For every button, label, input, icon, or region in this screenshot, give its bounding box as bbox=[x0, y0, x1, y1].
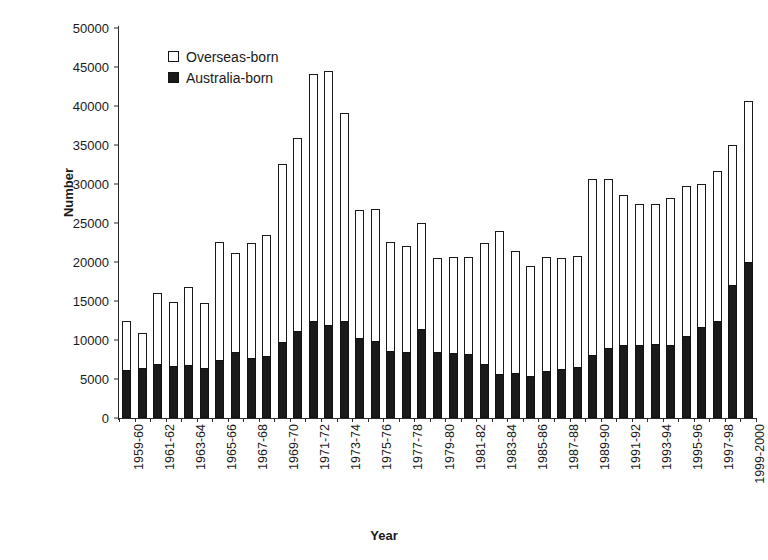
bar-segment-australia-born bbox=[293, 331, 302, 418]
x-axis-tick-mark bbox=[337, 418, 338, 422]
bar-segment-australia-born bbox=[184, 365, 193, 418]
bar-stack bbox=[651, 28, 660, 418]
bar-segment-australia-born bbox=[744, 262, 753, 418]
y-axis-tick-label: 25000 bbox=[0, 216, 118, 231]
bar-stack bbox=[728, 28, 737, 418]
x-axis-tick-mark bbox=[756, 418, 757, 422]
x-axis-tick-mark bbox=[212, 418, 213, 422]
x-axis-tick-mark bbox=[181, 418, 182, 422]
bar-stack bbox=[340, 28, 349, 418]
bar-segment-australia-born bbox=[215, 360, 224, 418]
chart-legend: Overseas-born Australia-born bbox=[168, 46, 279, 88]
bar-segment-australia-born bbox=[635, 345, 644, 418]
bar-segment-australia-born bbox=[557, 369, 566, 418]
x-axis-tick-label: 1975-76 bbox=[380, 424, 394, 470]
x-axis-tick-label: 1999-2000 bbox=[753, 424, 767, 484]
x-axis-tick-mark bbox=[678, 418, 679, 422]
y-axis-tick-label: 45000 bbox=[0, 60, 118, 75]
bar-stack bbox=[495, 28, 504, 418]
x-axis-tick-mark bbox=[476, 418, 477, 422]
bar-stack bbox=[511, 28, 520, 418]
x-axis-tick-label: 1985-86 bbox=[536, 424, 550, 470]
x-axis-tick-mark bbox=[523, 418, 524, 422]
bar-segment-australia-born bbox=[278, 342, 287, 418]
x-axis-tick-label: 1965-66 bbox=[225, 424, 239, 470]
x-axis-line bbox=[118, 418, 757, 419]
x-axis-tick-mark bbox=[274, 418, 275, 422]
x-axis-tick-mark bbox=[694, 418, 695, 422]
x-axis-tick-mark bbox=[150, 418, 151, 422]
y-axis-tick-label: 50000 bbox=[0, 21, 118, 36]
bar-stack bbox=[122, 28, 131, 418]
y-axis-tick-label: 20000 bbox=[0, 255, 118, 270]
bar-segment-australia-born bbox=[713, 321, 722, 418]
bar-stack bbox=[153, 28, 162, 418]
x-axis-tick-mark bbox=[321, 418, 322, 422]
bar-stack bbox=[386, 28, 395, 418]
bar-stack bbox=[635, 28, 644, 418]
x-axis-tick-label: 1981-82 bbox=[474, 424, 488, 470]
bar-segment-australia-born bbox=[619, 345, 628, 418]
bar-segment-australia-born bbox=[371, 341, 380, 418]
bar-segment-australia-born bbox=[588, 355, 597, 418]
bar-segment-australia-born bbox=[697, 327, 706, 418]
x-axis-tick-mark bbox=[570, 418, 571, 422]
x-axis-tick-label: 1993-94 bbox=[660, 424, 674, 470]
bar-stack bbox=[402, 28, 411, 418]
bar-stack bbox=[480, 28, 489, 418]
bar-segment-australia-born bbox=[138, 368, 147, 418]
x-axis-tick-mark bbox=[647, 418, 648, 422]
y-axis-tick-label: 30000 bbox=[0, 177, 118, 192]
x-axis-tick-label: 1973-74 bbox=[349, 424, 363, 470]
x-axis-tick-mark bbox=[119, 418, 120, 422]
bar-stack bbox=[433, 28, 442, 418]
x-axis-tick-label: 1959-60 bbox=[132, 424, 146, 470]
bar-stack bbox=[293, 28, 302, 418]
x-axis-tick-mark bbox=[538, 418, 539, 422]
x-axis-tick-mark bbox=[399, 418, 400, 422]
bar-segment-australia-born bbox=[340, 321, 349, 418]
bar-stack bbox=[371, 28, 380, 418]
x-axis-tick-mark bbox=[414, 418, 415, 422]
bar-segment-australia-born bbox=[666, 345, 675, 418]
bar-stack bbox=[278, 28, 287, 418]
legend-label-australia-born: Australia-born bbox=[186, 70, 273, 86]
x-axis-tick-label: 1969-70 bbox=[287, 424, 301, 470]
bar-segment-australia-born bbox=[464, 354, 473, 418]
x-axis-tick-label: 1979-80 bbox=[443, 424, 457, 470]
bar-segment-australia-born bbox=[153, 364, 162, 418]
bar-segment-australia-born bbox=[604, 348, 613, 418]
bar-stack bbox=[697, 28, 706, 418]
bar-segment-australia-born bbox=[169, 366, 178, 418]
x-axis-tick-mark bbox=[492, 418, 493, 422]
x-axis-tick-label: 1991-92 bbox=[629, 424, 643, 470]
bar-segment-australia-born bbox=[542, 371, 551, 418]
x-axis-tick-mark bbox=[585, 418, 586, 422]
x-axis-tick-mark bbox=[368, 418, 369, 422]
bar-stack bbox=[309, 28, 318, 418]
legend-swatch-australia-icon bbox=[168, 72, 179, 83]
x-axis-tick-mark bbox=[554, 418, 555, 422]
bar-stack bbox=[542, 28, 551, 418]
x-axis-tick-mark bbox=[243, 418, 244, 422]
x-axis-tick-label: 1977-78 bbox=[411, 424, 425, 470]
bar-segment-australia-born bbox=[682, 336, 691, 418]
x-axis-tick-mark bbox=[740, 418, 741, 422]
legend-item-overseas-born: Overseas-born bbox=[168, 46, 279, 67]
x-axis-tick-label: 1983-84 bbox=[505, 424, 519, 470]
x-axis-tick-label: 1997-98 bbox=[722, 424, 736, 470]
x-axis-tick-mark bbox=[461, 418, 462, 422]
x-axis-tick-label: 1961-62 bbox=[163, 424, 177, 470]
bar-stack bbox=[713, 28, 722, 418]
bar-stack bbox=[619, 28, 628, 418]
bar-segment-australia-born bbox=[309, 321, 318, 419]
bar-segment-australia-born bbox=[402, 352, 411, 418]
bar-stack bbox=[324, 28, 333, 418]
x-axis-tick-mark bbox=[507, 418, 508, 422]
x-axis-tick-mark bbox=[135, 418, 136, 422]
bar-segment-australia-born bbox=[231, 352, 240, 418]
bar-stack bbox=[138, 28, 147, 418]
bar-segment-australia-born bbox=[651, 344, 660, 418]
bar-stack bbox=[573, 28, 582, 418]
x-axis-tick-mark bbox=[290, 418, 291, 422]
